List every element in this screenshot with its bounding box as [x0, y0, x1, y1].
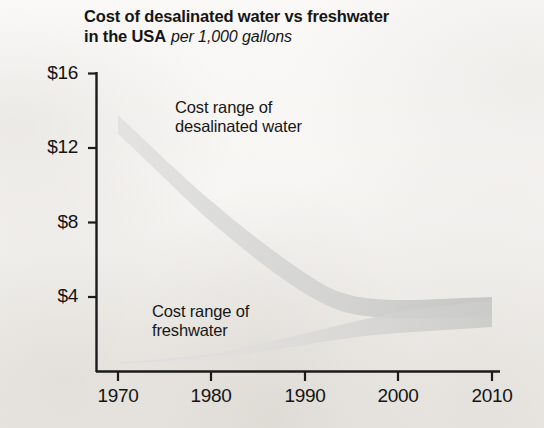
- y-tick-label-8: $8: [16, 211, 78, 233]
- desalinated-water-annotation-line-2: desalinated water: [175, 117, 302, 136]
- desalinated-water-annotation: Cost range of desalinated water: [175, 98, 302, 137]
- desalinated-water-annotation-line-1: Cost range of: [175, 98, 302, 117]
- plot-canvas: [0, 0, 544, 428]
- y-tick-label-12: $12: [16, 136, 78, 158]
- x-tick-label-1990: 1990: [270, 385, 340, 407]
- y-tick-label-4: $4: [16, 285, 78, 307]
- x-tick-label-1980: 1980: [176, 385, 246, 407]
- y-tick-label-16: $16: [16, 62, 78, 84]
- x-tick-label-2000: 2000: [363, 385, 433, 407]
- desalinated-water-band: [118, 115, 492, 318]
- freshwater-annotation-line-2: freshwater: [152, 321, 249, 340]
- chart-figure: Cost of desalinated water vs freshwater …: [0, 0, 544, 428]
- freshwater-annotation-line-1: Cost range of: [152, 302, 249, 321]
- x-tick-label-1970: 1970: [83, 385, 153, 407]
- x-tick-label-2010: 2010: [457, 385, 527, 407]
- freshwater-annotation: Cost range of freshwater: [152, 302, 249, 341]
